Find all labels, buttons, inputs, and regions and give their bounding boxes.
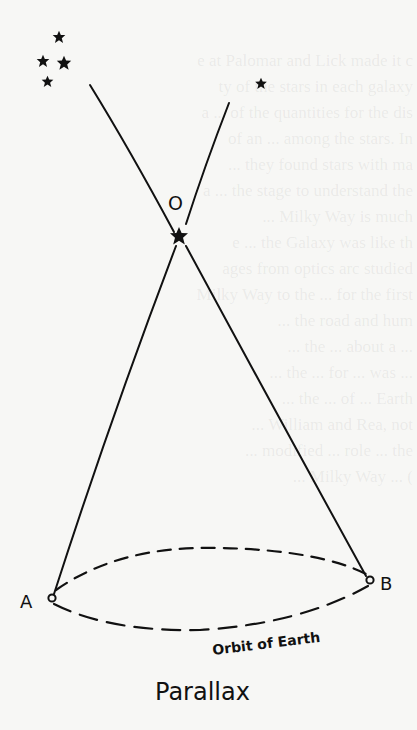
lone-distant-star-icon xyxy=(255,78,267,89)
sight-line-to-a xyxy=(54,246,176,594)
label-b: B xyxy=(380,573,392,594)
sight-line-upper-right xyxy=(186,103,229,224)
sight-line-upper-left xyxy=(90,85,174,232)
distant-star-cluster-icon xyxy=(37,31,71,87)
diagram-title: Parallax xyxy=(155,678,250,706)
orbit-label: Orbit of Earth xyxy=(211,629,321,658)
point-b-marker xyxy=(366,576,373,583)
earth-orbit xyxy=(54,548,368,630)
point-a-marker xyxy=(48,594,55,601)
label-o: O xyxy=(168,192,183,214)
label-a: A xyxy=(20,591,33,612)
sight-line-to-b xyxy=(186,246,366,576)
scanned-page: e at Palomar and Lick made it c ty of th… xyxy=(0,0,417,730)
parallax-diagram: O A B Orbit of Earth Parallax xyxy=(0,0,417,730)
